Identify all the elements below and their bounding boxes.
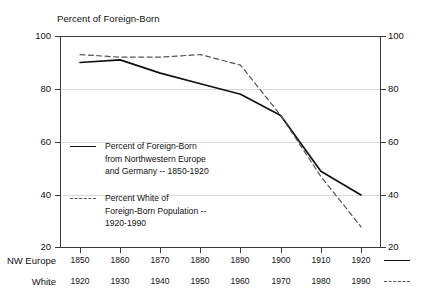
ytick-mark-20-left [55,247,60,248]
ytick-label-left-2: 60 [25,137,51,147]
xtick-label-white-1: 1930 [103,276,137,287]
ytick-mark-60-left [55,142,60,143]
xtick-label-nw-1: 1860 [103,255,137,266]
ytick-label-right-4: 20 [388,242,414,252]
xtick-mark-4 [240,248,241,253]
ytick-label-right-3: 40 [388,190,414,200]
ytick-label-right-0: 100 [388,31,414,41]
xtick-label-white-5: 1970 [264,276,298,287]
legend-line-0-1: from Northwestern Europe [105,153,209,166]
xtick-mark-1 [120,248,121,253]
xtick-mark-7 [361,248,362,253]
xtick-mark-2 [160,248,161,253]
ytick-mark-40-left [55,195,60,196]
ytick-label-left-1: 80 [25,84,51,94]
ytick-mark-80-right [381,89,386,90]
xtick-label-white-6: 1980 [304,276,338,287]
ytick-label-right-1: 80 [388,84,414,94]
xtick-label-white-4: 1960 [223,276,257,287]
xtick-label-nw-3: 1880 [183,255,217,266]
xtick-mark-5 [281,248,282,253]
xtick-label-nw-6: 1910 [304,255,338,266]
legend-key-solid [70,146,96,147]
ytick-label-right-2: 60 [388,137,414,147]
ytick-mark-80-left [55,89,60,90]
ytick-label-left-0: 100 [25,31,51,41]
xaxis-row-label-white: White [0,276,56,287]
legend-line-1-1: Foreign-Born Population -- [105,205,206,218]
legend-key-dashed [70,198,96,199]
xaxis-row-key-solid [384,260,410,261]
ytick-label-left-4: 20 [25,242,51,252]
legend-entry-nw-europe: Percent of Foreign-Born from Northwester… [105,140,209,178]
xtick-label-nw-2: 1870 [143,255,177,266]
xtick-label-nw-5: 1900 [264,255,298,266]
xtick-mark-6 [321,248,322,253]
legend-line-0-2: and Germany -- 1850-1920 [105,165,209,178]
legend-entry-white: Percent White of Foreign-Born Population… [105,192,206,230]
xtick-label-nw-7: 1920 [344,255,378,266]
xtick-label-white-0: 1920 [63,276,97,287]
xtick-label-white-3: 1950 [183,276,217,287]
ytick-mark-40-right [381,195,386,196]
xtick-mark-3 [200,248,201,253]
ytick-mark-100-right [381,36,386,37]
xtick-label-white-7: 1990 [344,276,378,287]
xtick-label-nw-4: 1890 [223,255,257,266]
gridline-80 [61,89,380,90]
legend-line-1-2: 1920-1990 [105,217,206,230]
xtick-mark-0 [80,248,81,253]
ytick-mark-20-right [381,247,386,248]
xaxis-row-key-dashed [384,281,410,282]
xtick-label-nw-0: 1850 [63,255,97,266]
legend-line-0-0: Percent of Foreign-Born [105,140,209,153]
ytick-mark-60-right [381,142,386,143]
ytick-label-left-3: 40 [25,190,51,200]
xaxis-row-label-nw-europe: NW Europe [0,255,56,266]
foreign-born-line-chart: Percent of Foreign-Born 100 80 60 40 20 … [0,0,436,295]
ytick-mark-100-left [55,36,60,37]
legend-line-1-0: Percent White of [105,192,206,205]
xtick-label-white-2: 1940 [143,276,177,287]
chart-title: Percent of Foreign-Born [57,13,160,24]
